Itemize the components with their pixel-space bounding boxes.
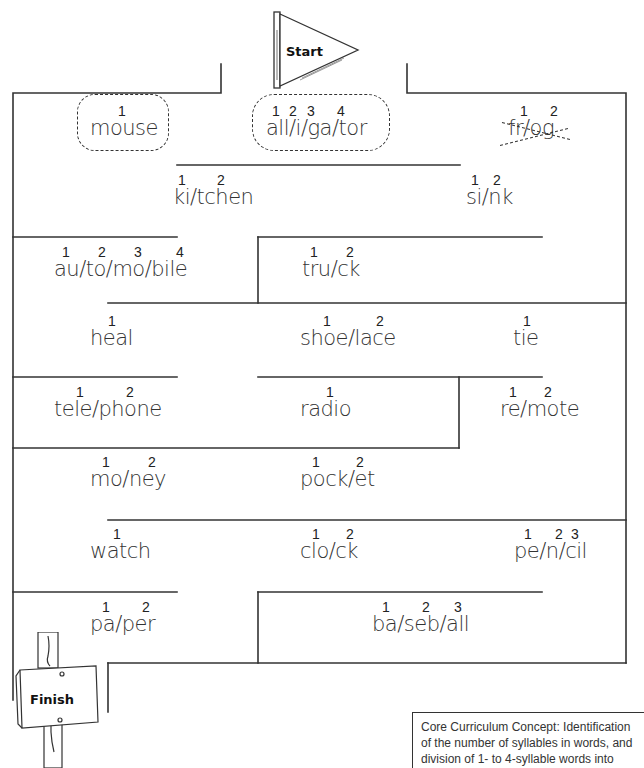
- word-shoelace[interactable]: 1 2 shoe/lace: [300, 313, 410, 355]
- word-sink[interactable]: 1 2 si/nk: [466, 172, 526, 214]
- word-text: re/mote: [500, 397, 579, 421]
- word-mouse[interactable]: 1 mouse: [90, 103, 170, 145]
- word-text: radio: [300, 397, 351, 421]
- word-automobile[interactable]: 1 2 3 4 au/to/mo/bile: [54, 244, 204, 286]
- word-text: si/nk: [466, 185, 513, 209]
- word-text: heal: [90, 326, 133, 350]
- word-telephone[interactable]: 1 2 tele/phone: [54, 384, 174, 426]
- word-remote[interactable]: 1 2 re/mote: [500, 384, 600, 426]
- word-pocket[interactable]: 1 2 pock/et: [300, 454, 390, 496]
- curriculum-concept-note: Core Curriculum Concept: Identification …: [412, 712, 644, 768]
- word-text: pa/per: [90, 612, 155, 636]
- finish-sign: Finish: [14, 632, 104, 768]
- word-text: pock/et: [300, 467, 375, 491]
- word-pencil[interactable]: 1 2 3 pe/n/cil: [514, 526, 594, 568]
- word-text: pe/n/cil: [514, 539, 587, 563]
- word-text: ki/tchen: [173, 185, 253, 209]
- finish-label: Finish: [30, 692, 74, 707]
- word-watch[interactable]: 1 watch: [90, 526, 160, 568]
- word-text: mo/ney: [90, 467, 166, 491]
- word-baseball[interactable]: 1 2 3 ba/seb/all: [372, 599, 482, 641]
- word-text: all/i/ga/tor: [266, 116, 367, 140]
- word-text: shoe/lace: [300, 326, 396, 350]
- word-money[interactable]: 1 2 mo/ney: [90, 454, 180, 496]
- word-text: tele/phone: [54, 397, 162, 421]
- maze-wall-top-right: [407, 64, 626, 663]
- word-kitchen[interactable]: 1 2 ki/tchen: [173, 172, 273, 214]
- word-truck[interactable]: 1 2 tru/ck: [302, 244, 372, 286]
- word-text: watch: [90, 539, 151, 563]
- word-clock[interactable]: 1 2 clo/ck: [300, 526, 370, 568]
- word-paper[interactable]: 1 2 pa/per: [90, 599, 170, 641]
- start-flag: Start: [272, 10, 362, 90]
- word-radio[interactable]: 1 radio: [300, 384, 370, 426]
- word-text: mouse: [90, 116, 158, 140]
- word-text: tru/ck: [302, 257, 360, 281]
- word-text: au/to/mo/bile: [54, 257, 187, 281]
- word-alligator[interactable]: 1 2 3 4 all/i/ga/tor: [266, 103, 386, 145]
- start-label: Start: [286, 44, 323, 59]
- word-text: clo/ck: [300, 539, 358, 563]
- word-heal[interactable]: 1 heal: [90, 313, 150, 355]
- word-text: ba/seb/all: [372, 612, 469, 636]
- word-tie[interactable]: 1 tie: [513, 313, 553, 355]
- word-text: tie: [513, 326, 539, 350]
